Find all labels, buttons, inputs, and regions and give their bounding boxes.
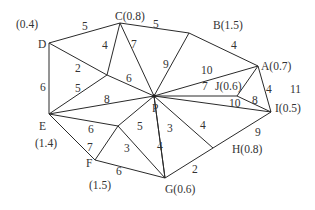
edge-weight-I-P: 10 <box>229 97 241 109</box>
edge-E-P <box>49 96 154 114</box>
edge-weight-A-I: 4 <box>266 83 272 95</box>
edge-H-G <box>165 148 213 178</box>
edge-C-N1 <box>107 23 120 75</box>
node-label-g: G(0.6) <box>165 183 196 196</box>
edge-B-A <box>189 33 258 66</box>
edge-weight-B-P: 9 <box>163 58 169 70</box>
edge-weight-D-N1: 2 <box>75 62 81 74</box>
edge-weight-I-H: 9 <box>255 126 261 138</box>
edge-weight-E-N2: 6 <box>88 123 94 135</box>
extra-labels: 11 <box>290 83 301 95</box>
node-dot-P <box>152 94 156 98</box>
edge-weight-B-A: 4 <box>231 39 237 51</box>
node-label-p: P <box>152 102 158 114</box>
edge-weight-J-P: 7 <box>202 80 208 92</box>
node-label-h: H(0.8) <box>232 143 263 156</box>
edge-weight-F-E: 7 <box>87 141 93 153</box>
edge-weight-E-D: 6 <box>40 81 46 93</box>
node-label-b: B(1.5) <box>213 19 243 32</box>
node-label-j: J(0.6) <box>215 80 242 93</box>
edge-weight-A-P: 10 <box>201 64 213 76</box>
edge-N2-F <box>95 126 118 160</box>
node-labels: PA(0.7)B(1.5)C(0.8)D(0.4)E(1.4)F(1.5)G(0… <box>16 10 301 196</box>
node-label-i: I(0.5) <box>275 102 301 115</box>
edge-weight-G-P: 3 <box>167 122 173 134</box>
edge-weight-H-P: 4 <box>200 119 206 131</box>
node-label-e-w: (1.4) <box>35 137 57 150</box>
node-label-d-w: (0.4) <box>16 18 38 31</box>
extra-label: 11 <box>290 83 301 95</box>
edge-weight-N2-P: 5 <box>137 120 143 132</box>
edge-G-F <box>95 160 165 178</box>
edge-weight-N2-G: 3 <box>124 142 130 154</box>
weighted-graph-diagram: 5544926764256791071084386534 PA(0.7)B(1.… <box>0 0 315 210</box>
node-label-c: C(0.8) <box>115 10 145 23</box>
edge-C-P <box>120 23 154 96</box>
edge-B-P <box>154 33 189 96</box>
edge-weight-C-N1: 4 <box>102 39 108 51</box>
edge-N2-P <box>118 96 154 126</box>
edge-weight-G-F: 6 <box>116 165 122 177</box>
edge-weight-E-P: 8 <box>104 93 110 105</box>
edge-N1-E <box>49 75 107 114</box>
edge-weight-H-G: 2 <box>192 163 198 175</box>
node-label-a: A(0.7) <box>261 60 292 73</box>
node-label-f-w: (1.5) <box>89 179 111 192</box>
edge-weight-C-B: 5 <box>153 18 159 30</box>
edge-weight-G-P: 4 <box>157 140 163 152</box>
graph-nodes <box>152 94 156 98</box>
edge-weight-J-I: 8 <box>252 94 258 106</box>
edge-weight-C-P: 7 <box>131 38 137 50</box>
node-label-e: E <box>39 120 46 132</box>
edge-weight-N1-E: 5 <box>75 82 81 94</box>
edge-weight-N1-P: 6 <box>126 72 132 84</box>
node-label-f: F <box>86 157 92 169</box>
node-label-d: D <box>38 38 46 50</box>
edge-weight-D-C: 5 <box>82 20 88 32</box>
